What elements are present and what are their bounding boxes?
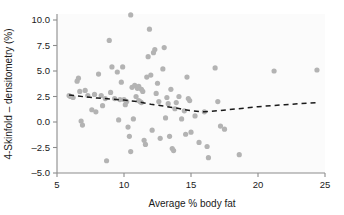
y-tick-label: 10.0	[32, 14, 51, 25]
data-point	[148, 72, 153, 77]
x-tick-label: 15	[186, 179, 197, 190]
data-point	[174, 100, 179, 105]
data-point	[204, 144, 209, 149]
data-point	[206, 155, 211, 160]
data-point	[128, 149, 133, 154]
data-point	[109, 64, 114, 69]
data-point	[166, 101, 171, 106]
data-point	[187, 98, 192, 103]
x-tick-label: 25	[320, 179, 331, 190]
y-axis-ticks: –5.0–2.50.02.55.07.510.0	[32, 14, 58, 178]
data-point	[179, 116, 184, 121]
plot-panel-background	[57, 14, 325, 173]
data-point	[77, 89, 82, 94]
data-point	[115, 69, 120, 74]
data-point	[128, 12, 133, 17]
data-point	[120, 64, 125, 69]
data-point	[80, 122, 85, 127]
x-tick-label: 10	[119, 179, 130, 190]
chart-canvas: –5.0–2.50.02.55.07.510.0 510152025 Avera…	[0, 0, 344, 215]
y-tick-label: 7.5	[37, 40, 50, 51]
data-point	[184, 75, 189, 80]
y-tick-label: –2.5	[32, 142, 51, 153]
data-point	[271, 68, 276, 73]
data-point	[147, 27, 152, 32]
data-point	[182, 108, 187, 113]
data-point	[215, 99, 220, 104]
data-point	[237, 152, 242, 157]
data-point	[143, 142, 148, 147]
data-point	[155, 81, 160, 86]
y-tick-label: 2.5	[37, 91, 50, 102]
data-point	[222, 127, 227, 132]
data-point	[140, 89, 145, 94]
data-point	[164, 95, 169, 100]
data-point	[162, 45, 167, 50]
x-tick-label: 5	[54, 179, 59, 190]
data-point	[150, 128, 155, 133]
y-tick-label: 0.0	[37, 116, 50, 127]
data-point	[107, 38, 112, 43]
x-axis-title: Average % body fat	[148, 198, 235, 209]
data-point	[100, 103, 105, 108]
y-tick-label: 5.0	[37, 65, 50, 76]
data-point	[76, 76, 81, 81]
x-tick-label: 20	[253, 179, 264, 190]
data-point	[168, 87, 173, 92]
data-point	[96, 71, 101, 76]
data-point	[163, 115, 168, 120]
data-point	[119, 80, 124, 85]
data-point	[188, 130, 193, 135]
data-point	[158, 136, 163, 141]
x-axis-ticks: 510152025	[54, 173, 330, 190]
data-point	[160, 66, 165, 71]
y-axis-title: 4-Skinfold – densitometry (%)	[3, 28, 14, 159]
data-point	[213, 65, 218, 70]
data-point	[112, 96, 117, 101]
data-point	[93, 109, 98, 114]
data-point	[131, 116, 136, 121]
y-tick-label: –5.0	[32, 167, 51, 178]
data-point	[104, 158, 109, 163]
data-point	[167, 134, 172, 139]
data-point	[83, 88, 88, 93]
data-point	[176, 94, 181, 99]
data-point	[127, 134, 132, 139]
scatter-plot-figure: –5.0–2.50.02.55.07.510.0 510152025 Avera…	[0, 0, 344, 215]
data-point	[192, 113, 197, 118]
data-point	[116, 117, 121, 122]
data-point	[146, 54, 151, 59]
data-point	[156, 99, 161, 104]
data-point	[196, 140, 201, 145]
data-point	[154, 91, 159, 96]
data-point	[314, 67, 319, 72]
data-point	[152, 47, 157, 52]
data-point	[92, 92, 97, 97]
data-point	[108, 90, 113, 95]
data-point	[183, 132, 188, 137]
data-point	[171, 148, 176, 153]
data-point	[125, 125, 130, 130]
